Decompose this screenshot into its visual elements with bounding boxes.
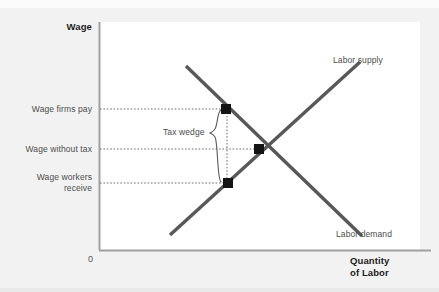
labor-demand-curve-label: Labor demand (336, 229, 392, 240)
origin-label: 0 (88, 254, 93, 265)
wage-firms-pay-point (221, 104, 231, 114)
labor-supply-curve-label: Labor supply (333, 55, 383, 66)
equilibrium-point (254, 144, 264, 154)
x-axis-title: Quantity of Labor (350, 255, 389, 278)
tax-wedge-annotation: Tax wedge (163, 127, 205, 138)
y-axis-title: Wage (67, 22, 92, 33)
y-tick-label-wage-firms-pay: Wage firms pay (32, 104, 92, 115)
y-tick-label-wage-workers-receive: Wage workers receive (37, 172, 92, 194)
y-tick-label-wage-without-tax: Wage without tax (26, 144, 92, 155)
figure-container: Wage Quantity of Labor 0 Wage firms pay … (0, 0, 439, 292)
wage-workers-receive-point (223, 178, 233, 188)
